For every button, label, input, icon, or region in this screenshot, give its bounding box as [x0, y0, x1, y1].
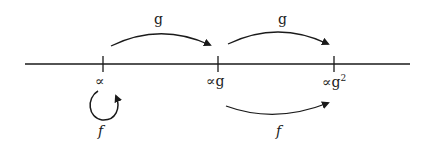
- point-alpha-g2-base: ∝g: [322, 74, 340, 90]
- arrow-g-2-label: g: [278, 12, 287, 26]
- arrow-g-2: [228, 32, 328, 44]
- point-alpha-label: ∝: [95, 74, 104, 88]
- arrow-f-2-label: f: [276, 124, 281, 138]
- point-alpha-g2-label: ∝g2: [322, 74, 346, 89]
- arrow-f-loop: [90, 91, 118, 120]
- diagram-canvas: g g ∝ ∝g ∝g2 f f: [0, 0, 429, 149]
- arrow-g-1: [111, 34, 210, 46]
- arrow-f-loop-label: f: [98, 124, 103, 138]
- arrow-g-1-label: g: [154, 12, 163, 26]
- arrow-f-2: [226, 103, 328, 114]
- point-alpha-g2-exponent: 2: [340, 73, 346, 83]
- point-alpha-g-label: ∝g: [206, 74, 224, 88]
